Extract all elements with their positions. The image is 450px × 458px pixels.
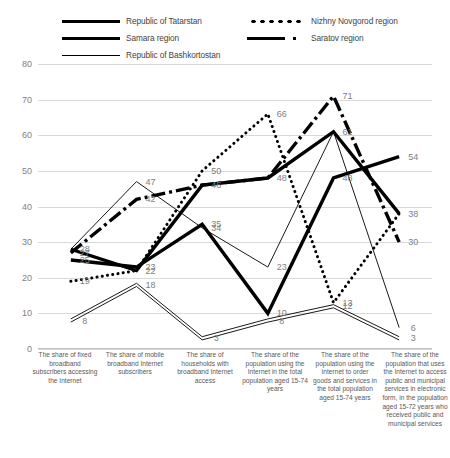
legend-key-thin-solid-icon — [62, 49, 120, 61]
data-point-label: 30 — [408, 237, 418, 247]
legend-item-republic-of-tatarstan: Republic of Tatarstan — [62, 14, 220, 27]
data-point-label: 48 — [277, 173, 287, 183]
y-axis-tick-label: 10 — [22, 308, 32, 318]
data-point-label: 46 — [211, 180, 221, 190]
data-point-label: 48 — [342, 173, 352, 183]
data-point-label: 12 — [342, 301, 352, 311]
legend-column-left: Republic of Tatarstan Samara region Repu… — [62, 14, 220, 65]
plot-area: 01020304050607080 2827251984742232218504… — [38, 64, 432, 349]
data-point-label: 71 — [342, 91, 352, 101]
legend-item-saratov-region: Saratov region — [247, 31, 398, 44]
data-point-label: 8 — [82, 316, 87, 326]
data-point-label: 22 — [145, 266, 155, 276]
x-axis-category-labels: The share of fixed broadband subscribers… — [30, 351, 450, 458]
y-axis-tick-label: 70 — [22, 95, 32, 105]
y-axis-tick-label: 40 — [22, 202, 32, 212]
legend-label: Republic of Tatarstan — [126, 16, 202, 26]
x-axis-category-label-1: The share of mobile broadband Internet s… — [100, 351, 170, 458]
data-point-label: 3 — [411, 333, 416, 343]
legend-key-thick-solid-icon — [62, 15, 120, 27]
y-axis-tick-label: 50 — [22, 166, 32, 176]
series-line — [71, 132, 399, 271]
legend-item-samara-region: Samara region — [62, 31, 220, 44]
data-point-label: 42 — [145, 194, 155, 204]
data-point-label: 61 — [342, 127, 352, 137]
data-point-label: 19 — [80, 276, 90, 286]
x-axis-category-label-5: The share of the population that uses th… — [380, 351, 450, 458]
data-point-label: 34 — [211, 223, 221, 233]
legend-label: Samara region — [126, 33, 179, 43]
legend-column-right: Nizhny Novgorod region Saratov region — [247, 14, 398, 48]
data-point-label: 25 — [80, 255, 90, 265]
y-axis-tick-label: 80 — [22, 59, 32, 69]
chart-legend: Republic of Tatarstan Samara region Repu… — [0, 14, 450, 54]
x-axis-category-label-0: The share of fixed broadband subscribers… — [30, 351, 100, 458]
series-line — [71, 286, 399, 339]
data-point-label: 47 — [145, 177, 155, 187]
chart-container: Republic of Tatarstan Samara region Repu… — [0, 0, 450, 458]
legend-key-dash-dot-icon — [247, 32, 305, 44]
series-lines — [38, 64, 432, 349]
y-axis-tick-label: 60 — [22, 130, 32, 140]
legend-key-dotted-icon — [247, 15, 305, 27]
data-point-label: 38 — [408, 209, 418, 219]
data-point-label: 6 — [411, 323, 416, 333]
data-point-label: 54 — [408, 152, 418, 162]
x-axis-category-label-4: The share of the population using the In… — [310, 351, 380, 458]
gridline: 0 — [38, 349, 432, 350]
legend-label: Republic of Bashkortostan — [126, 50, 220, 60]
x-axis-category-label-2: The share of households with broadband I… — [170, 351, 240, 458]
data-point-label: 8 — [279, 316, 284, 326]
legend-label: Saratov region — [311, 33, 364, 43]
y-axis-tick-label: 20 — [22, 273, 32, 283]
data-point-label: 66 — [277, 109, 287, 119]
legend-item-republic-of-bashkortostan: Republic of Bashkortostan — [62, 48, 220, 61]
data-point-label: 3 — [214, 333, 219, 343]
y-axis-tick-label: 30 — [22, 237, 32, 247]
x-axis-category-label-3: The share of the population using the In… — [240, 351, 310, 458]
legend-label: Nizhny Novgorod region — [311, 16, 398, 26]
data-point-label: 50 — [211, 166, 221, 176]
data-point-label: 18 — [145, 280, 155, 290]
legend-key-thick-solid-icon — [62, 32, 120, 44]
series-line — [71, 114, 399, 303]
data-point-label: 23 — [277, 262, 287, 272]
legend-item-nizhny-novgorod-region: Nizhny Novgorod region — [247, 14, 398, 27]
